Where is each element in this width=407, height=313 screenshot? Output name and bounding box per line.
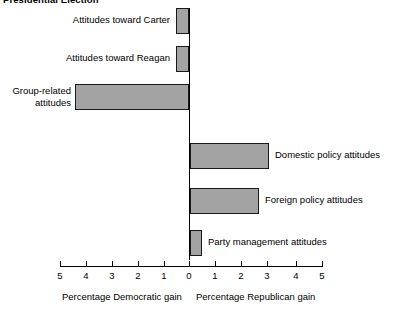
axis-tick-label: 4 <box>76 270 96 281</box>
category-label-group-related-attitudes: Group-related attitudes <box>3 85 71 108</box>
axis-tick <box>138 261 139 267</box>
axis-tick-label: 2 <box>128 270 148 281</box>
axis-tick-label: 1 <box>205 270 225 281</box>
bar-attitudes-toward-carter <box>176 8 189 34</box>
bar-chart: Presidential Election Attitudes toward C… <box>0 0 407 313</box>
bar-foreign-policy-attitudes <box>190 188 259 214</box>
axis-tick-label: 3 <box>102 270 122 281</box>
zero-axis-line <box>189 8 190 260</box>
category-label-party-management-attitudes: Party management attitudes <box>208 236 407 248</box>
axis-tick-label: 5 <box>312 270 332 281</box>
axis-tick-label-zero: 0 <box>179 270 199 281</box>
x-axis: 5 4 3 2 1 0 1 2 3 4 5 Percentage Democra… <box>0 260 407 313</box>
axis-caption-republican: Percentage Republican gain <box>196 291 315 302</box>
category-label-attitudes-toward-reagan: Attitudes toward Reagan <box>0 52 170 64</box>
axis-tick-zero <box>189 261 190 267</box>
axis-tick <box>296 261 297 267</box>
axis-tick <box>86 261 87 267</box>
category-label-foreign-policy-attitudes: Foreign policy attitudes <box>265 194 407 206</box>
category-label-attitudes-toward-carter: Attitudes toward Carter <box>0 14 170 26</box>
axis-line <box>60 266 323 267</box>
bar-party-management-attitudes <box>190 230 202 256</box>
axis-tick <box>322 261 323 267</box>
axis-tick <box>215 261 216 267</box>
category-label-domestic-policy-attitudes: Domestic policy attitudes <box>275 149 407 161</box>
axis-tick-label: 2 <box>231 270 251 281</box>
axis-tick <box>164 261 165 267</box>
axis-tick-label: 4 <box>286 270 306 281</box>
axis-tick-label: 5 <box>50 270 70 281</box>
axis-tick <box>112 261 113 267</box>
plot-area: Attitudes toward Carter Attitudes toward… <box>0 8 407 260</box>
chart-title: Presidential Election <box>3 0 99 5</box>
axis-tick-label: 3 <box>257 270 277 281</box>
axis-tick <box>60 261 61 267</box>
axis-tick <box>267 261 268 267</box>
axis-caption-democratic: Percentage Democratic gain <box>62 291 182 302</box>
bar-group-related-attitudes <box>75 84 189 110</box>
axis-tick-label: 1 <box>154 270 174 281</box>
bar-domestic-policy-attitudes <box>190 143 269 169</box>
axis-tick <box>241 261 242 267</box>
bar-attitudes-toward-reagan <box>176 46 189 72</box>
